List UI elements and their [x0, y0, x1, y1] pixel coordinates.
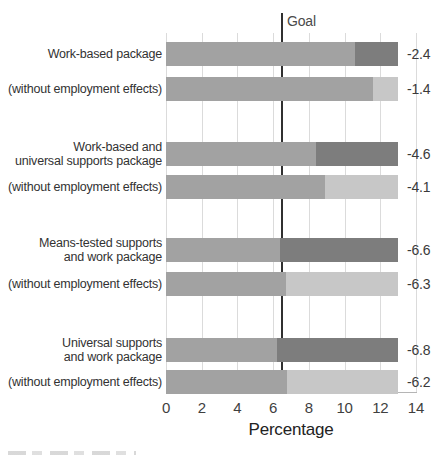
- x-tick-label: 10: [336, 399, 352, 416]
- row-label: Universal supportsand work package: [0, 338, 162, 362]
- bar-reduction-segment: [316, 142, 398, 166]
- x-tick-label: 14: [408, 399, 424, 416]
- bar-remaining-segment: [166, 42, 355, 66]
- bar-reduction-segment: [373, 77, 398, 101]
- value-label: -2.4: [407, 42, 441, 66]
- value-label: -4.1: [407, 175, 441, 199]
- bar-row: [166, 42, 398, 66]
- bar-row: [166, 142, 398, 166]
- bar-row: [166, 175, 398, 199]
- bar-row: [166, 338, 398, 362]
- bar-row: [166, 370, 398, 394]
- value-label: -6.3: [407, 272, 441, 296]
- bar-remaining-segment: [166, 370, 287, 394]
- row-label: (without employment effects): [0, 370, 162, 394]
- bar-reduction-segment: [325, 175, 398, 199]
- value-label: -1.4: [407, 77, 441, 101]
- x-tick-label: 8: [305, 399, 313, 416]
- x-tick-label: 6: [269, 399, 277, 416]
- bar-reduction-segment: [355, 42, 398, 66]
- goal-reference-line: [281, 13, 283, 393]
- bar-row: [166, 238, 398, 262]
- value-label: -6.8: [407, 338, 441, 362]
- bar-remaining-segment: [166, 272, 286, 296]
- x-tick-label: 2: [198, 399, 206, 416]
- bar-remaining-segment: [166, 338, 277, 362]
- bar-reduction-segment: [286, 272, 399, 296]
- bar-remaining-segment: [166, 142, 316, 166]
- row-label: (without employment effects): [0, 175, 162, 199]
- row-label: (without employment effects): [0, 272, 162, 296]
- goal-label: Goal: [287, 13, 316, 29]
- row-label: Work-based package: [0, 42, 162, 66]
- row-label: (without employment effects): [0, 77, 162, 101]
- chart-canvas: Goal Percentage 02468101214Work-based pa…: [0, 0, 441, 457]
- cropped-caption-fragment: [8, 451, 136, 455]
- bar-reduction-segment: [277, 338, 398, 362]
- row-label: Work-based anduniversal supports package: [0, 142, 162, 166]
- x-tick-label: 4: [233, 399, 241, 416]
- value-label: -6.2: [407, 370, 441, 394]
- x-tick-label: 12: [372, 399, 388, 416]
- bar-row: [166, 77, 398, 101]
- row-label: Means-tested supportsand work package: [0, 238, 162, 262]
- bar-reduction-segment: [287, 370, 398, 394]
- x-axis-title: Percentage: [166, 420, 416, 440]
- bar-row: [166, 272, 398, 296]
- value-label: -4.6: [407, 142, 441, 166]
- bar-remaining-segment: [166, 238, 280, 262]
- bar-remaining-segment: [166, 175, 325, 199]
- x-tick-label: 0: [162, 399, 170, 416]
- value-label: -6.6: [407, 238, 441, 262]
- bar-remaining-segment: [166, 77, 373, 101]
- bar-reduction-segment: [280, 238, 398, 262]
